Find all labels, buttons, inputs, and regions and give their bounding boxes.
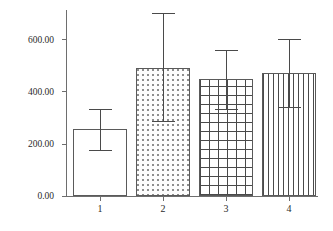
bar-chart: 土壤微生物量磷/(mg/kg) 600.00 400.00 200.00 0.0… <box>0 0 333 231</box>
y-axis-tick-600 <box>62 39 67 40</box>
x-axis-tick-4 <box>289 196 290 201</box>
error-bar-cap-upper-4 <box>278 39 301 40</box>
error-bar-cap-upper-1 <box>89 109 112 110</box>
x-tick-label-4: 4 <box>274 203 304 215</box>
error-bar-stem-4 <box>289 39 290 107</box>
error-bar-stem-2 <box>163 13 164 122</box>
x-axis-tick-2 <box>163 196 164 201</box>
y-axis-tick-400 <box>62 91 67 92</box>
x-axis-line <box>66 196 318 197</box>
y-axis-tick-200 <box>62 144 67 145</box>
x-axis-tick-3 <box>226 196 227 201</box>
x-tick-label-2: 2 <box>148 203 178 215</box>
y-tick-label-200: 200.00 <box>28 139 54 149</box>
error-bar-stem-3 <box>226 50 227 109</box>
x-tick-label-3: 3 <box>211 203 241 215</box>
error-bar-cap-lower-4 <box>278 107 301 108</box>
error-bar-cap-lower-3 <box>215 109 238 110</box>
x-tick-label-1: 1 <box>85 203 115 215</box>
x-axis-tick-1 <box>100 196 101 201</box>
y-tick-label-600: 600.00 <box>28 35 54 45</box>
error-bar-cap-upper-2 <box>152 13 175 14</box>
x-axis-tick-labels: 1 2 3 4 <box>66 203 318 219</box>
y-tick-label-0: 0.00 <box>37 191 54 201</box>
plot-area <box>66 10 318 197</box>
y-axis-tick-labels: 600.00 400.00 200.00 0.00 <box>0 10 62 197</box>
y-axis-tick-0 <box>62 196 67 197</box>
error-bar-cap-lower-2 <box>152 121 175 122</box>
y-tick-label-400: 400.00 <box>28 87 54 97</box>
error-bar-cap-lower-1 <box>89 150 112 151</box>
error-bar-cap-upper-3 <box>215 50 238 51</box>
error-bar-stem-1 <box>100 109 101 150</box>
